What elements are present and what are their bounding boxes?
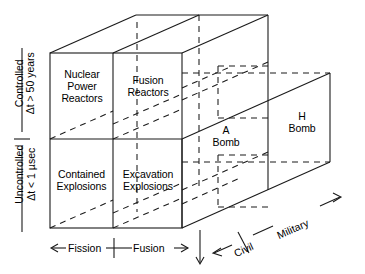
hidden-depth-diagonal-cell3	[50, 200, 113, 228]
depth-axis-line-near	[214, 245, 232, 253]
hidden-depth-diagonal-cell1	[50, 111, 113, 139]
hidden-depth-diagonal-cell5	[113, 94, 182, 124]
cell-label-h-bomb: H Bomb	[282, 110, 322, 134]
cell-label-fusion-reactors: Fusion Reactors	[116, 74, 180, 98]
axis-label-fusion: Fusion	[133, 242, 165, 254]
axis-label-fission: Fission	[68, 242, 101, 254]
cube-linework	[0, 0, 365, 274]
depth-axis-line-far	[320, 197, 340, 206]
depth-axis-far-arrow	[333, 193, 341, 202]
axis-label-uncontrolled-line1: Uncontrolled	[13, 130, 26, 218]
cell-label-nuclear-power-reactors: Nuclear Power Reactors	[52, 68, 112, 105]
hidden-upper-back-diagonal-b	[182, 67, 230, 88]
hidden-lower-back-diagonal-b	[182, 178, 240, 204]
hidden-depth-diagonal-cell4	[113, 198, 182, 228]
cell-label-contained-explosions: Contained Explosions	[50, 168, 113, 192]
top-face-right-edge	[182, 15, 268, 53]
side-face-bottom-edge	[182, 162, 330, 228]
hidden-depth-diagonal-cell2	[113, 109, 182, 139]
nuclear-classification-diagram: Nuclear Power Reactors Fusion Reactors C…	[0, 0, 365, 274]
top-face-mid-edge	[113, 15, 199, 53]
hidden-upper-back-diagonal-a	[182, 62, 268, 100]
axis-label-controlled-line2: Δt > 50 years	[24, 41, 37, 125]
axis-label-uncontrolled-line2: Δt < 1 µsec	[25, 130, 38, 218]
depth-axis-line-mid	[253, 226, 273, 235]
cell-label-a-bomb: A Bomb	[206, 124, 246, 148]
cell-label-excavation-explosions: Excavation Explosions	[114, 168, 182, 192]
top-face-left-edge	[50, 15, 136, 53]
